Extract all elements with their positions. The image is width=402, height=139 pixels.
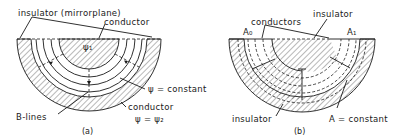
- caption-a: (a): [82, 127, 93, 136]
- insulator-bottom-label: insulator: [232, 114, 272, 124]
- b-line-arrow-icon: [87, 81, 91, 85]
- diagram-a: insulator (mirrorplane) conductor ψ₁ ψ =…: [16, 8, 207, 136]
- leader-line: [20, 17, 32, 38]
- diagram-b: insulator conductors A₀ A₁ insulator A =…: [229, 9, 388, 136]
- outer-conductor-label: conductor: [128, 102, 174, 112]
- caption-b: (b): [294, 127, 305, 136]
- a-constant-label: A = constant: [329, 114, 388, 124]
- figure-canvas: insulator (mirrorplane) conductor ψ₁ ψ =…: [0, 0, 402, 139]
- a1-label: A₁: [347, 27, 357, 37]
- insulator-top-label: insulator: [313, 9, 353, 19]
- psi2-label: ψ = ψ₂: [135, 114, 164, 124]
- conductors-label: conductors: [251, 17, 301, 27]
- b-lines-label: B-lines: [16, 112, 47, 122]
- inner-conductor-label: conductor: [104, 17, 150, 27]
- leader-line: [314, 19, 327, 38]
- psi1-label: ψ₁: [83, 42, 93, 52]
- a0-label: A₀: [243, 27, 253, 37]
- psi-constant-label: ψ = constant: [148, 84, 207, 94]
- b-line-arrow-icon: [124, 61, 128, 65]
